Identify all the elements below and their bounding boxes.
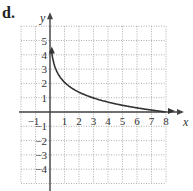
x-tick-label: 1 (62, 115, 68, 127)
curve-line (52, 53, 166, 113)
y-tick-label: 2 (42, 77, 48, 89)
curve-arrow-right-icon (168, 108, 175, 114)
y-tick-label: −4 (35, 163, 47, 175)
y-tick-label: −3 (35, 149, 47, 161)
x-tick-label: 5 (120, 115, 126, 127)
x-axis-label: x (182, 115, 189, 129)
y-tick-label: −1 (35, 120, 47, 132)
x-tick-label: 2 (76, 115, 82, 127)
y-axis-arrow-icon (47, 12, 53, 19)
y-tick-label: 5 (42, 35, 48, 47)
data-curve (49, 47, 175, 114)
chart: xy−11234567854321−1−2−3−4 (0, 0, 193, 191)
x-tick-label: 8 (163, 115, 169, 127)
y-tick-label: 1 (42, 92, 48, 104)
tick-labels: xy−11234567854321−1−2−3−4 (28, 11, 189, 175)
y-tick-label: 4 (42, 49, 48, 61)
x-tick-label: 3 (91, 115, 97, 127)
x-tick-label: 4 (105, 115, 111, 127)
x-tick-label: 6 (134, 115, 140, 127)
x-tick-label: 7 (149, 115, 155, 127)
y-tick-label: 3 (42, 63, 48, 75)
y-tick-label: −2 (35, 135, 47, 147)
y-axis-label: y (39, 11, 46, 25)
